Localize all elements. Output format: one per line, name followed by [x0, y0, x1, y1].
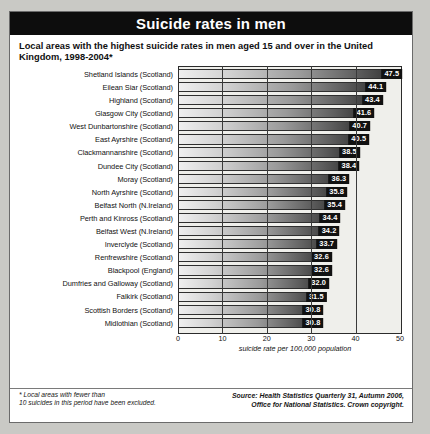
gridline: [311, 66, 312, 334]
bar: [178, 292, 327, 302]
bar-track: 35.8: [178, 186, 413, 199]
bar: [178, 305, 323, 315]
bar-row: Eilean Siar (Scotland)44.1: [10, 81, 413, 94]
bar-row: Glasgow City (Scotland)41.6: [10, 107, 413, 120]
bar: [178, 121, 370, 131]
bar: [178, 174, 349, 184]
bar-row: North Ayrshire (Scotland)35.8: [10, 186, 413, 199]
bar-track: 32.6: [178, 264, 413, 277]
x-axis-tick-label: 30: [307, 334, 315, 343]
bar-track: 34.2: [178, 225, 413, 238]
footnote-line-1: * Local areas with fewer than: [19, 391, 156, 399]
category-label: Clackmannanshire (Scotland): [10, 148, 178, 157]
bar-value-label: 31.5: [306, 292, 327, 302]
bar-value-label: 38.5: [339, 147, 360, 157]
bar-value-label: 36.3: [329, 174, 350, 184]
bar: [178, 95, 383, 105]
bar-track: 40.7: [178, 120, 413, 133]
category-label: Glasgow City (Scotland): [10, 109, 178, 118]
gridline: [267, 66, 268, 334]
bar-track: 30.8: [178, 317, 413, 330]
category-label: Belfast West (N.Ireland): [10, 227, 178, 236]
bar-value-label: 44.1: [365, 82, 386, 92]
category-label: West Dunbartonshire (Scotland): [10, 122, 178, 131]
category-label: Moray (Scotland): [10, 175, 178, 184]
bar-row: Blackpool (England)32.6: [10, 264, 413, 277]
bar-track: 32.0: [178, 277, 413, 290]
category-label: Midlothian (Scotland): [10, 319, 178, 328]
bar-track: 41.6: [178, 107, 413, 120]
category-label: Blackpool (England): [10, 266, 178, 275]
bar-row: Moray (Scotland)36.3: [10, 173, 413, 186]
bar-row: Falkirk (Scotland)31.5: [10, 290, 413, 303]
bar: [178, 239, 337, 249]
bar-track: 38.5: [178, 146, 413, 159]
bar-value-label: 35.8: [326, 187, 347, 197]
bar-track: 33.7: [178, 238, 413, 251]
bar-value-label: 34.2: [319, 226, 340, 236]
bar-track: 36.3: [178, 173, 413, 186]
category-label: Scottish Borders (Scotland): [10, 306, 178, 315]
chart-plot-region: Shetland Islands (Scotland)47.5Eilean Si…: [10, 66, 412, 334]
bar-value-label: 30.8: [303, 305, 324, 315]
bar: [178, 134, 369, 144]
bar-row: Dundee City (Scotland)38.4: [10, 159, 413, 172]
bar: [178, 161, 359, 171]
bar-track: 44.1: [178, 81, 413, 94]
bar: [178, 318, 323, 328]
category-label: Belfast North (N.Ireland): [10, 201, 178, 210]
category-label: Inverclyde (Scotland): [10, 240, 178, 249]
gridline: [222, 66, 223, 334]
bar: [178, 213, 340, 223]
bar-row: West Dunbartonshire (Scotland)40.7: [10, 120, 413, 133]
x-axis-tick-label: 10: [218, 334, 226, 343]
footnote: * Local areas with fewer than 10 suicide…: [19, 391, 156, 408]
category-label: Falkirk (Scotland): [10, 292, 178, 301]
bar-row: East Ayrshire (Scotland)40.5: [10, 133, 413, 146]
bar-value-label: 40.7: [349, 121, 370, 131]
bar-row: Belfast North (N.Ireland)35.4: [10, 199, 413, 212]
bar-row: Clackmannanshire (Scotland)38.5: [10, 146, 413, 159]
category-label: Dundee City (Scotland): [10, 162, 178, 171]
page-title: Suicide rates in men: [136, 15, 286, 32]
bar-value-label: 35.4: [324, 200, 345, 210]
category-label: Dumfries and Galloway (Scotland): [10, 279, 178, 288]
bar: [178, 252, 332, 262]
x-axis-tick-label: 0: [176, 334, 180, 343]
bar-value-label: 34.4: [320, 213, 341, 223]
source-line-1: Source: Health Statistics Quarterly 31, …: [232, 391, 404, 400]
category-label: Renfrewshire (Scotland): [10, 253, 178, 262]
bar-value-label: 32.6: [311, 265, 332, 275]
source-credit: Source: Health Statistics Quarterly 31, …: [232, 391, 404, 409]
bar-value-label: 43.4: [362, 95, 383, 105]
bar-value-label: 33.7: [316, 239, 337, 249]
bar: [178, 226, 339, 236]
bar-row: Perth and Kinross (Scotland)34.4: [10, 212, 413, 225]
footnote-line-2: 10 suicides in this period have been exc…: [19, 399, 156, 407]
bar-row: Belfast West (N.Ireland)34.2: [10, 225, 413, 238]
bar: [178, 278, 329, 288]
bar-value-label: 47.5: [381, 69, 402, 79]
bar-row: Inverclyde (Scotland)33.7: [10, 238, 413, 251]
x-axis-tick-label: 20: [263, 334, 271, 343]
bar: [178, 187, 347, 197]
x-axis-tick-label: 50: [396, 334, 404, 343]
chart-subtitle: Local areas with the highest suicide rat…: [10, 35, 412, 66]
category-label: East Ayrshire (Scotland): [10, 135, 178, 144]
source-line-2: Office for National Statistics. Crown co…: [232, 400, 404, 409]
gridline: [356, 66, 357, 334]
bar: [178, 265, 332, 275]
bar-track: 43.4: [178, 94, 413, 107]
bar-row: Highland (Scotland)43.4: [10, 94, 413, 107]
bar-row: Shetland Islands (Scotland)47.5: [10, 68, 413, 81]
bar-track: 32.6: [178, 251, 413, 264]
bar: [178, 147, 360, 157]
bar: [178, 69, 402, 79]
bar-track: 30.8: [178, 304, 413, 317]
bar-value-label: 40.5: [348, 134, 369, 144]
chart-title-bar: Suicide rates in men: [10, 12, 412, 35]
category-label: Perth and Kinross (Scotland): [10, 214, 178, 223]
bar-value-label: 32.6: [311, 252, 332, 262]
x-axis: 01020304050: [10, 334, 412, 343]
x-axis-title: suicide rate per 100,000 population: [10, 344, 412, 353]
